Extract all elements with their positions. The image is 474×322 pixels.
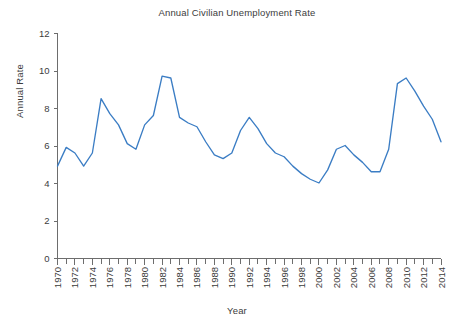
chart-figure: Annual Civilian Unemployment Rate Annual…: [0, 0, 474, 322]
x-tick-label: 1984: [174, 267, 185, 288]
x-tick-label: 2014: [436, 267, 447, 288]
x-tick-label: 2002: [331, 267, 342, 288]
unemployment-rate-line: [58, 76, 442, 183]
y-tick-label: 12: [39, 28, 50, 39]
x-tick-label: 1986: [191, 267, 202, 288]
x-tick-label: 1974: [87, 267, 98, 288]
x-tick-label: 1976: [104, 267, 115, 288]
x-tick-label: 1996: [279, 267, 290, 288]
y-tick-label: 4: [44, 178, 49, 189]
x-tick-label: 1992: [244, 267, 255, 288]
y-tick-label: 2: [44, 215, 49, 226]
y-tick-label: 0: [44, 253, 49, 264]
x-tick-label: 1972: [69, 267, 80, 288]
y-tick-group: 024681012: [39, 28, 58, 264]
x-tick-label: 2006: [366, 267, 377, 288]
x-tick-label: 1988: [209, 267, 220, 288]
x-tick-label: 1998: [296, 267, 307, 288]
x-tick-label: 1982: [157, 267, 168, 288]
x-tick-label: 1994: [261, 267, 272, 288]
x-tick-label: 2000: [313, 267, 324, 288]
x-tick-label: 1990: [226, 267, 237, 288]
y-tick-label: 10: [39, 65, 50, 76]
series-group: [58, 76, 442, 183]
x-tick-label: 1970: [52, 267, 63, 288]
x-tick-label: 2010: [401, 267, 412, 288]
y-tick-label: 6: [44, 140, 49, 151]
axes: [58, 33, 442, 259]
y-tick-label: 8: [44, 103, 49, 114]
x-tick-label: 1980: [139, 267, 150, 288]
x-tick-label: 1978: [122, 267, 133, 288]
x-tick-label: 2004: [348, 267, 359, 288]
x-tick-label: 2008: [383, 267, 394, 288]
plot-area: 024681012 197019721974197619781980198219…: [0, 0, 474, 322]
x-tick-group: 1970197219741976197819801982198419861988…: [52, 259, 447, 289]
x-tick-label: 2012: [418, 267, 429, 288]
